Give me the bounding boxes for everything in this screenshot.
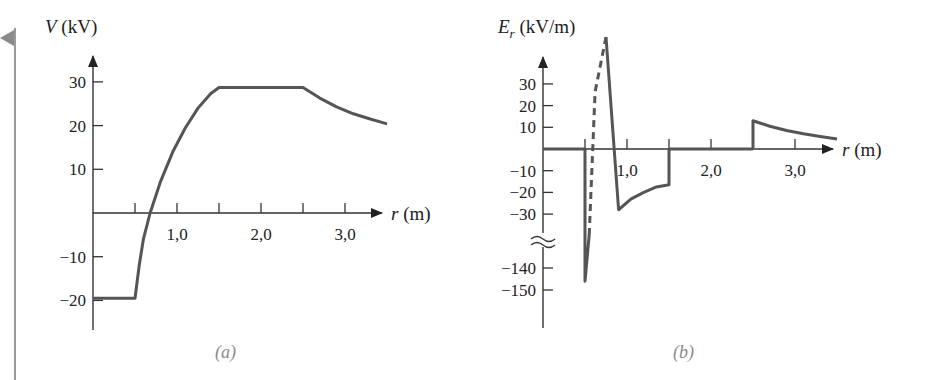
data-line-dashed bbox=[589, 37, 606, 235]
data-line bbox=[606, 37, 669, 210]
chart-b-x-ticks: 1,02,03,0 bbox=[585, 139, 806, 180]
y-tick-label: 20 bbox=[519, 97, 536, 116]
y-tick-label: 10 bbox=[519, 118, 536, 137]
x-tick-label: 3,0 bbox=[784, 161, 805, 180]
x-tick-label: 2,0 bbox=[700, 161, 721, 180]
x-tick-label: 2,0 bbox=[250, 225, 271, 244]
y-tick-label: −30 bbox=[509, 205, 536, 224]
y-tick-label: −10 bbox=[59, 248, 86, 267]
chart-a-series bbox=[93, 88, 387, 299]
chart-a-x-title: r (m) bbox=[391, 203, 431, 225]
y-tick-label: −10 bbox=[509, 162, 536, 181]
x-tick-label: 1,0 bbox=[616, 161, 637, 180]
y-tick-label: 30 bbox=[519, 75, 536, 94]
x-tick-label: 3,0 bbox=[334, 225, 355, 244]
chart-a-panel-label: (a) bbox=[215, 342, 236, 363]
figure: V (kV) r (m) 302010−10−20 1,02,03,0 (a) … bbox=[0, 0, 925, 380]
y-tick-label: −20 bbox=[509, 183, 536, 202]
chart-b-y-ticks: 302010−10−20−30−140−150 bbox=[501, 75, 553, 300]
y-tick-label: 30 bbox=[69, 73, 86, 92]
y-tick-label: −150 bbox=[501, 281, 536, 300]
chart-a: V (kV) r (m) 302010−10−20 1,02,03,0 (a) bbox=[45, 16, 431, 363]
chart-a-y-title: V (kV) bbox=[45, 16, 97, 38]
y-tick-label: −20 bbox=[59, 291, 86, 310]
chart-b-x-title: r (m) bbox=[842, 139, 882, 161]
y-tick-label: −140 bbox=[501, 259, 536, 278]
y-tick-label: 10 bbox=[69, 160, 86, 179]
chart-b-series bbox=[543, 37, 837, 281]
chart-b-panel-label: (b) bbox=[673, 342, 694, 363]
data-line bbox=[93, 88, 387, 299]
chart-b: Er (kV/m) r (m) 302010−10−20−30−140−150 … bbox=[497, 16, 882, 363]
chart-a-y-ticks: 302010−10−20 bbox=[59, 73, 103, 311]
chart-b-axis-break-icon bbox=[530, 233, 556, 248]
charts-canvas: V (kV) r (m) 302010−10−20 1,02,03,0 (a) … bbox=[0, 0, 925, 380]
y-tick-label: 20 bbox=[69, 117, 86, 136]
chart-a-x-ticks: 1,02,03,0 bbox=[135, 203, 356, 244]
chart-b-y-title: Er (kV/m) bbox=[497, 16, 575, 41]
data-line bbox=[585, 149, 589, 281]
x-tick-label: 1,0 bbox=[166, 225, 187, 244]
